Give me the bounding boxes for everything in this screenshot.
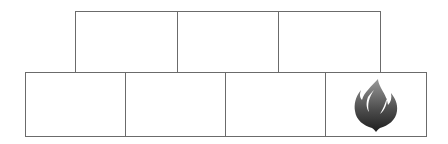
bottom-cell-1 — [25, 72, 127, 137]
top-cell-3 — [278, 11, 381, 73]
top-cell-2 — [177, 11, 280, 73]
brick-diagram — [0, 0, 448, 144]
top-cell-1 — [75, 11, 178, 73]
bottom-cell-2 — [125, 72, 227, 137]
flame-icon — [354, 78, 398, 132]
top-row — [75, 11, 381, 73]
bottom-row — [25, 72, 427, 137]
bottom-cell-3 — [225, 72, 327, 137]
bottom-cell-4 — [325, 72, 427, 137]
